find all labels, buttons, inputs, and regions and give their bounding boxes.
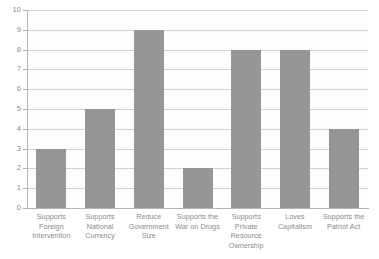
x-axis-category-labels: Supports Foreign InterventionSupports Na… [27, 212, 368, 259]
bar[interactable] [85, 109, 115, 208]
x-tick-label: Loves Capitalism [272, 212, 319, 231]
bar[interactable] [183, 168, 213, 208]
y-tick-mark-8 [23, 50, 27, 51]
x-tick-label: Reduce Government Size [125, 212, 172, 241]
x-axis-line [27, 208, 369, 209]
x-tick-label: Supports the Patriot Act [320, 212, 367, 231]
bar[interactable] [329, 129, 359, 208]
y-tick-label-10: 10 [1, 6, 21, 14]
bar-chart: 012345678910 Supports Foreign Interventi… [0, 0, 379, 259]
y-tick-mark-0 [23, 208, 27, 209]
y-axis: 012345678910 [0, 0, 24, 259]
x-tick-label: Supports the War on Drugs [174, 212, 221, 231]
y-tick-label-5: 5 [1, 105, 21, 113]
bars-layer [27, 10, 368, 208]
bar[interactable] [231, 50, 261, 208]
y-tick-label-1: 1 [1, 184, 21, 192]
bar[interactable] [280, 50, 310, 208]
y-tick-label-9: 9 [1, 26, 21, 34]
y-tick-label-4: 4 [1, 125, 21, 133]
y-tick-label-6: 6 [1, 85, 21, 93]
y-tick-label-7: 7 [1, 65, 21, 73]
y-tick-label-8: 8 [1, 46, 21, 54]
y-tick-mark-9 [23, 30, 27, 31]
y-tick-label-0: 0 [1, 204, 21, 212]
y-tick-mark-10 [23, 10, 27, 11]
y-tick-mark-3 [23, 149, 27, 150]
bar[interactable] [134, 30, 164, 208]
x-tick-label: Supports Private Resource Ownership [223, 212, 270, 250]
y-tick-mark-6 [23, 89, 27, 90]
y-tick-mark-7 [23, 69, 27, 70]
y-tick-mark-5 [23, 109, 27, 110]
y-tick-mark-2 [23, 168, 27, 169]
y-tick-mark-1 [23, 188, 27, 189]
y-tick-mark-4 [23, 129, 27, 130]
y-tick-label-2: 2 [1, 164, 21, 172]
bar[interactable] [36, 149, 66, 208]
x-tick-label: Supports National Currency [77, 212, 124, 241]
y-tick-label-3: 3 [1, 145, 21, 153]
x-tick-label: Supports Foreign Intervention [28, 212, 75, 241]
